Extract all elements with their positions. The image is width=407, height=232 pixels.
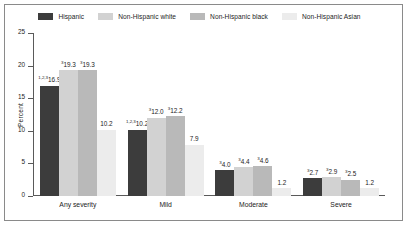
bar-value-footnote: 3 — [219, 159, 221, 164]
bar-value-label: 1,2,316.9 — [38, 77, 60, 83]
bar-value-label: 34.4 — [238, 159, 249, 165]
bar-column[interactable]: 34.4 — [234, 33, 253, 196]
bar-column[interactable]: 1,2,310.2 — [128, 33, 147, 196]
bar-value-label: 1,2,310.2 — [126, 121, 148, 127]
bar-value-label: 32.9 — [326, 169, 337, 175]
bar-value-footnote: 3 — [149, 107, 151, 112]
chart-figure: Hispanic Non-Hispanic white Non-Hispanic… — [0, 0, 407, 232]
bar-value-footnote: 3 — [80, 60, 82, 65]
bar-column[interactable]: 319.3 — [78, 33, 97, 196]
bar-column[interactable]: 34.0 — [215, 33, 234, 196]
y-axis-tick-label: 25 — [18, 28, 25, 35]
bar[interactable] — [185, 145, 204, 197]
y-axis-tick-label: 0 — [21, 191, 25, 198]
bar-value-label: 32.7 — [307, 170, 318, 176]
bar-value-footnote: 3 — [326, 167, 328, 172]
bar-column[interactable]: 319.3 — [59, 33, 78, 196]
bar-column[interactable]: 312.2 — [166, 33, 185, 196]
bar-column[interactable]: 312.0 — [147, 33, 166, 196]
y-axis-tick: 0 — [28, 196, 33, 197]
bar-value-label: 1.2 — [277, 180, 286, 186]
bar-value-footnote: 1,2,3 — [38, 75, 48, 80]
y-axis-tick: 20 — [28, 66, 33, 67]
bar[interactable] — [166, 116, 185, 196]
x-axis-tick-label: Moderate — [210, 201, 298, 208]
bar[interactable] — [128, 130, 147, 197]
bar-group-bars: 32.732.932.51.2 — [297, 33, 385, 196]
bar-value-footnote: 3 — [238, 157, 240, 162]
bar-column[interactable]: 32.9 — [322, 33, 341, 196]
legend-swatch-icon — [38, 13, 53, 20]
y-axis-tick: 5 — [28, 163, 33, 164]
legend-label: Non-Hispanic black — [210, 13, 268, 20]
y-axis-tick-label: 10 — [18, 126, 25, 133]
bar-value-label: 34.6 — [257, 158, 268, 164]
plot-area: Percent 0510152025 1,2,316.9319.3319.310… — [33, 33, 385, 196]
bar-value-label: 319.3 — [80, 62, 95, 68]
legend-label: Non-Hispanic Asian — [302, 13, 361, 20]
y-axis-tick: 15 — [28, 98, 33, 99]
bar[interactable] — [360, 188, 379, 196]
bar-value-footnote: 3 — [307, 168, 309, 173]
bar-column[interactable]: 32.7 — [303, 33, 322, 196]
bar[interactable] — [234, 167, 253, 196]
bar[interactable] — [341, 180, 360, 196]
y-axis-label: Percent — [17, 102, 24, 126]
bar-group: 34.034.434.61.2Moderate — [210, 33, 298, 196]
bar-value-label: 312.0 — [149, 109, 164, 115]
bar-column[interactable]: 10.2 — [97, 33, 116, 196]
bar[interactable] — [253, 166, 272, 196]
x-axis-tick-label: Mild — [122, 201, 210, 208]
bar[interactable] — [322, 177, 341, 196]
bar-value-footnote: 1,2,3 — [126, 119, 136, 124]
bar[interactable] — [59, 70, 78, 196]
bar-value-label: 10.2 — [100, 121, 112, 127]
y-axis-tick-label: 15 — [18, 93, 25, 100]
bar-column[interactable]: 1,2,316.9 — [40, 33, 59, 196]
bar-value-label: 319.3 — [61, 62, 76, 68]
bar-groups: 1,2,316.9319.3319.310.2Any severity1,2,3… — [34, 33, 385, 196]
bar[interactable] — [78, 70, 97, 196]
bar[interactable] — [215, 170, 234, 196]
legend-label: Non-Hispanic white — [118, 13, 176, 20]
bar-column[interactable]: 1.2 — [360, 33, 379, 196]
legend-label: Hispanic — [58, 13, 84, 20]
bar-value-label: 312.2 — [168, 108, 183, 114]
x-axis-tick-label: Any severity — [34, 201, 122, 208]
y-axis-tick: 25 — [28, 33, 33, 34]
bar-group: 1,2,310.2312.0312.27.9Mild — [122, 33, 210, 196]
bar-column[interactable]: 34.6 — [253, 33, 272, 196]
bar-group: 32.732.932.51.2Severe — [297, 33, 385, 196]
bar-value-footnote: 3 — [168, 106, 170, 111]
bar-column[interactable]: 1.2 — [272, 33, 291, 196]
legend-item-non-hispanic-black: Non-Hispanic black — [190, 13, 268, 20]
bar-value-label: 32.5 — [345, 171, 356, 177]
bar-value-footnote: 3 — [345, 169, 347, 174]
bar-group-bars: 1,2,316.9319.3319.310.2 — [34, 33, 122, 196]
legend-item-non-hispanic-asian: Non-Hispanic Asian — [282, 13, 361, 20]
bar-value-label: 1.2 — [365, 180, 374, 186]
bar[interactable] — [303, 178, 322, 196]
y-axis-tick: 10 — [28, 131, 33, 132]
legend-item-hispanic: Hispanic — [38, 13, 84, 20]
bar[interactable] — [97, 130, 116, 197]
legend-swatch-icon — [98, 13, 113, 20]
x-axis-tick-label: Severe — [297, 201, 385, 208]
bar[interactable] — [272, 188, 291, 196]
bar-group-bars: 34.034.434.61.2 — [210, 33, 298, 196]
chart-legend: Hispanic Non-Hispanic white Non-Hispanic… — [0, 13, 399, 20]
bar-value-label: 7.9 — [190, 136, 199, 142]
bar-column[interactable]: 7.9 — [185, 33, 204, 196]
bar-value-label: 34.0 — [219, 162, 230, 168]
bar[interactable] — [40, 86, 59, 196]
bar-value-footnote: 3 — [61, 60, 63, 65]
y-axis-tick-label: 5 — [21, 158, 25, 165]
legend-swatch-icon — [190, 13, 205, 20]
bar-value-footnote: 3 — [257, 155, 259, 160]
bar[interactable] — [147, 118, 166, 196]
bar-group-bars: 1,2,310.2312.0312.27.9 — [122, 33, 210, 196]
y-axis-tick-label: 20 — [18, 61, 25, 68]
bar-column[interactable]: 32.5 — [341, 33, 360, 196]
legend-item-non-hispanic-white: Non-Hispanic white — [98, 13, 176, 20]
legend-swatch-icon — [282, 13, 297, 20]
